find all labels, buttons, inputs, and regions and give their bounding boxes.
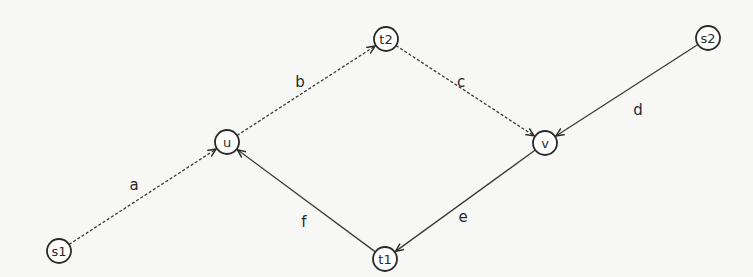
edge-b-line	[237, 46, 375, 135]
edge-d-label: d	[633, 101, 643, 119]
edge-d-line	[556, 44, 698, 135]
node-s1: s1	[47, 239, 71, 263]
node-s2: s2	[696, 26, 720, 50]
node-v-label: v	[541, 136, 549, 151]
edge-e-label: e	[458, 208, 467, 226]
edges-layer: a b c d e f	[69, 44, 698, 251]
node-u: u	[215, 130, 239, 154]
edge-d: d	[556, 44, 698, 135]
edge-c-label: c	[457, 73, 465, 91]
edge-f-line	[237, 150, 375, 252]
edge-b: b	[237, 46, 375, 135]
node-s2-label: s2	[700, 31, 715, 46]
edge-a: a	[69, 149, 216, 244]
node-s1-label: s1	[51, 244, 66, 259]
node-t2: t2	[374, 27, 398, 51]
graph-diagram: a b c d e f s1 u	[0, 0, 753, 277]
node-t1-label: t1	[378, 252, 391, 267]
edge-c: c	[396, 46, 534, 136]
node-v: v	[533, 131, 557, 155]
edge-e: e	[396, 150, 536, 251]
edge-a-line	[69, 149, 216, 244]
node-t1: t1	[373, 247, 397, 271]
edge-e-line	[396, 150, 536, 251]
nodes-layer: s1 u t2 v s2 t1	[47, 26, 720, 271]
node-t2-label: t2	[379, 32, 392, 47]
edge-f-label: f	[301, 213, 307, 231]
node-u-label: u	[223, 135, 231, 150]
edge-f: f	[237, 150, 375, 252]
edge-a-label: a	[129, 176, 138, 194]
edge-b-label: b	[295, 73, 305, 91]
